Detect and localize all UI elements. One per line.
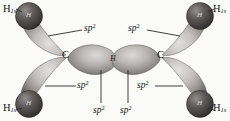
sigma-bond-lobe-left [68,45,116,75]
sp2-label-left: sp2 [77,80,89,90]
hydrogen-label-top-left: H1s [3,4,16,15]
hydrogen-label-bottom-left: H1s [3,103,16,114]
hydrogen-inner-label-bottom-right: H [197,100,202,107]
carbon-label-left: C [62,50,69,61]
hydrogen-inner-label-top-right: H [197,12,202,19]
sp2-label-right: sp2 [137,80,149,90]
hydrogen-label-bottom-right: H1s [213,103,226,114]
hydrogen-inner-label-top-left: H [26,12,31,19]
sp2-label-bottom-right: sp2 [120,105,132,115]
carbon-label-right: C [157,50,164,61]
sp2-label-top-right: sp2 [128,23,140,33]
sp2-label-bottom-left: sp2 [93,105,105,115]
hydrogen-label-top-right: H1s [213,4,226,15]
sigma-bond-label: H [110,55,116,63]
orbital-diagram-figure: H1s H1s H1s H1s H H H H C C H sp2 sp2 sp… [0,0,230,121]
sigma-bond-lobe-right [112,45,160,75]
hydrogen-inner-label-bottom-left: H [26,100,31,107]
leader-sp2-top-right [147,30,180,36]
leader-sp2-top-left [48,30,82,36]
sp2-label-top-left: sp2 [84,23,96,33]
